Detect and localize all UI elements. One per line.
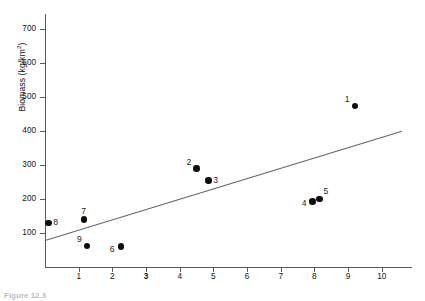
y-axis-tick-label: 100: [0, 229, 36, 237]
y-axis-tick-label: 400: [0, 127, 36, 135]
data-point-label: 7: [81, 207, 86, 216]
y-axis-tick-label: 200: [0, 195, 36, 203]
x-axis-tick-label: 3: [136, 273, 156, 281]
data-point-label: 2: [187, 158, 192, 167]
y-axis-title-exponent: 2: [15, 45, 22, 49]
x-axis-tick-label: 1: [69, 273, 89, 281]
x-axis-tick-label: 9: [338, 273, 358, 281]
figure-caption: Figure 12.3: [4, 291, 46, 301]
y-axis-title-tail: ): [17, 42, 27, 45]
data-point-label: 1: [345, 95, 350, 104]
plot-area: 123456789: [45, 14, 412, 267]
x-axis-tick-label: 5: [203, 273, 223, 281]
regression-line: [45, 14, 412, 267]
data-point: [352, 103, 358, 109]
x-axis-tick-label: 6: [237, 273, 257, 281]
y-axis-tick-label: 300: [0, 161, 36, 169]
data-point: [309, 198, 315, 204]
data-point-label: 4: [302, 199, 307, 208]
y-axis-tick-label: 700: [0, 25, 36, 33]
data-point-label: 6: [110, 245, 115, 254]
data-point: [45, 220, 51, 226]
y-axis-tick-label: 500: [0, 93, 36, 101]
x-axis-tick-label: 8: [304, 273, 324, 281]
data-point-label: 3: [213, 176, 218, 185]
scatter-plot-figure: Biomass (kg/km2) 100200300400500600700 1…: [0, 0, 425, 301]
x-axis-tick-label: 2: [102, 273, 122, 281]
data-point-label: 8: [53, 218, 58, 227]
x-axis-line: [45, 267, 412, 268]
data-point: [316, 196, 322, 202]
data-point: [193, 165, 199, 171]
data-point-label: 5: [323, 187, 328, 196]
trendline-segment: [45, 131, 402, 240]
y-axis-tick-label: 600: [0, 59, 36, 67]
data-point: [205, 177, 211, 183]
data-point: [81, 216, 87, 222]
data-point: [118, 243, 124, 249]
x-axis-tick-label: 4: [170, 273, 190, 281]
x-axis-tick-label: 7: [271, 273, 291, 281]
data-point-label: 9: [77, 235, 82, 244]
x-axis-tick-label: 10: [372, 273, 392, 281]
